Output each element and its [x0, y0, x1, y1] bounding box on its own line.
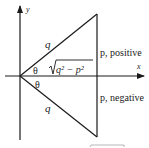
lower-hypotenuse [20, 76, 97, 137]
adjacent-side-label: q² − p² [49, 60, 93, 75]
cropped-artifact [90, 145, 124, 147]
hypotenuse-lower-label: q [45, 102, 51, 114]
y-axis-label: y [25, 5, 30, 14]
adjacent-expression: q² − p² [56, 64, 85, 75]
p-negative-label: p, negative [100, 92, 144, 103]
triangle-diagram: y x q q θ θ q² − p² p, positive p, negat… [0, 0, 149, 148]
hypotenuse-upper-label: q [45, 38, 51, 50]
x-axis-label: x [136, 62, 141, 71]
p-positive-label: p, positive [100, 47, 142, 58]
theta-lower-label: θ [35, 79, 40, 90]
theta-upper-label: θ [33, 65, 38, 76]
